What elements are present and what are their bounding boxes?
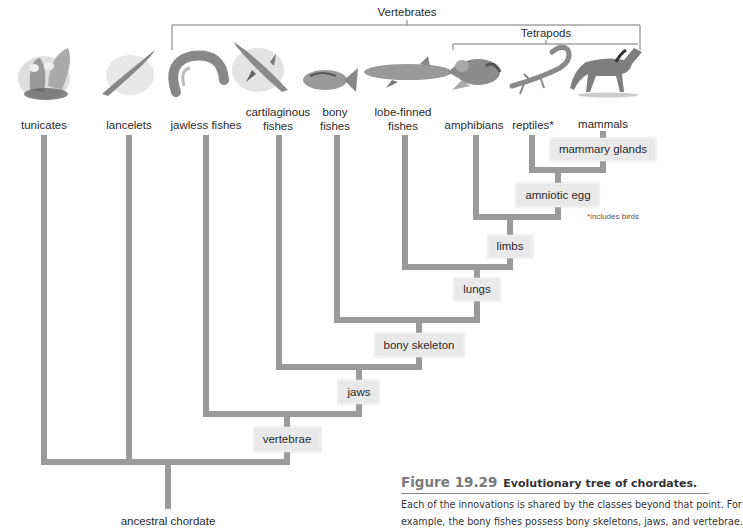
shark-icon	[232, 42, 288, 92]
innovation-vertebrae: vertebrae	[254, 427, 321, 452]
figure-number: Figure 19.29	[401, 474, 497, 490]
innovation-jaws: jaws	[338, 380, 379, 404]
lamprey-icon	[173, 56, 224, 93]
animal-illustrations	[18, 42, 642, 100]
innovation-limbs: limbs	[488, 235, 533, 258]
frog-icon	[452, 59, 500, 90]
taxon-label-line: fishes	[246, 119, 311, 133]
clade-label-tetrapods: Tetrapods	[521, 27, 572, 39]
taxon-label-line: cartilaginous	[246, 105, 311, 119]
horse-icon	[570, 48, 642, 98]
lancelet-icon	[102, 50, 155, 96]
caption-line: Each of the innovations is shared by the…	[401, 496, 709, 513]
root-label: ancestral chordate	[121, 514, 216, 528]
innovation-mammary-glands: mammary glands	[550, 138, 656, 161]
figure-caption: Figure 19.29Evolutionary tree of chordat…	[401, 474, 709, 529]
taxon-label-bony-fishes: bony fishes	[320, 105, 350, 133]
taxon-label-line: bony	[320, 105, 350, 119]
taxon-label-jawless-fishes: jawless fishes	[171, 118, 242, 132]
tunicate-icon	[18, 48, 70, 100]
taxon-label-reptiles: reptiles*	[512, 118, 554, 132]
figure-caption-body: Each of the innovations is shared by the…	[401, 496, 709, 529]
caption-line: example, the bony fishes possess bony sk…	[401, 513, 709, 529]
figure-name: Evolutionary tree of chordates.	[503, 477, 697, 490]
taxon-label-tunicates: tunicates	[21, 118, 67, 132]
innovation-bony-skeleton: bony skeleton	[375, 333, 464, 357]
taxon-label-lancelets: lancelets	[106, 118, 151, 132]
taxon-label-line: lobe-finned	[375, 105, 432, 119]
figure-title: Figure 19.29Evolutionary tree of chordat…	[401, 474, 709, 494]
lobe-finned-fish-icon	[364, 56, 462, 88]
taxon-label-mammals: mammals	[578, 117, 628, 131]
footnote: *includes birds	[587, 212, 639, 221]
taxon-label-line: fishes	[320, 119, 350, 133]
clade-label-vertebrates: Vertebrates	[378, 6, 437, 18]
innovation-lungs: lungs	[454, 278, 500, 301]
taxon-label-amphibians: amphibians	[445, 118, 504, 132]
innovation-amniotic-egg: amniotic egg	[516, 183, 599, 207]
taxon-label-line: fishes	[375, 119, 432, 133]
bony-fish-icon	[303, 68, 358, 92]
lizard-icon	[512, 47, 569, 94]
taxon-label-lobe-finned-fishes: lobe-finned fishes	[375, 105, 432, 133]
taxon-label-cartilaginous-fishes: cartilaginous fishes	[246, 105, 311, 133]
